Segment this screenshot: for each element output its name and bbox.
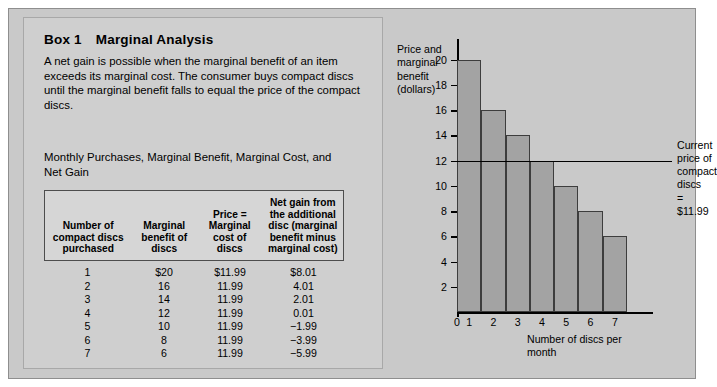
table-row: 2 16 11.99 4.01 [44,279,344,292]
y-tick-label-8: 8 [421,205,447,217]
bar-5 [554,186,578,312]
x-axis-line [457,312,653,314]
box-panel: Box 1Marginal Analysis A net gain is pos… [23,17,383,369]
bar-2 [481,110,505,312]
cell-marginal-cost: 11.99 [197,320,263,333]
cell-quantity: 1 [44,266,131,279]
cell-net-gain: 0.01 [263,306,344,319]
x-tick-label-6: 6 [583,316,599,328]
y-tick-label-4: 4 [421,256,447,268]
table-header-box: Number of compact discs purchased Margin… [44,190,344,261]
cell-marginal-cost: 11.99 [197,279,263,292]
box-number: Box 1 [44,32,82,47]
cell-quantity: 3 [44,293,131,306]
table-row: 1 $20 $11.99 $8.01 [44,266,344,279]
current-price-line [457,161,672,162]
table-row: 3 14 11.99 2.01 [44,293,344,306]
cell-marginal-benefit: 16 [131,279,197,292]
cell-marginal-benefit: 10 [131,320,197,333]
y-tick-label-10: 10 [421,180,447,192]
cell-quantity: 2 [44,279,131,292]
bar-7 [603,236,627,312]
x-tick-label-4: 4 [534,316,550,328]
x-tick-label-7: 7 [607,316,623,328]
bar-6 [578,211,602,312]
x-tick-label-5: 5 [558,316,574,328]
cell-net-gain: 4.01 [263,279,344,292]
x-tick-label-1: 1 [461,316,477,328]
bar-chart: Price and marginal benefit (dollars) 246… [397,17,683,369]
y-tick-label-6: 6 [421,230,447,242]
cell-marginal-cost: 11.99 [197,293,263,306]
x-axis-title: Number of discs per month [527,333,647,360]
bar-4 [530,161,554,312]
cell-net-gain: −1.99 [263,320,344,333]
cell-net-gain: −3.99 [263,333,344,346]
y-tick-label-14: 14 [421,129,447,141]
column-header-marginal-cost: Price = Marginal cost of discs [197,197,263,255]
table-header: Number of compact discs purchased Margin… [45,197,343,255]
box-body-text: A net gain is possible when the marginal… [44,54,362,112]
box-title-text: Marginal Analysis [96,32,214,47]
table-body-wrap: 1 $20 $11.99 $8.01 2 16 11.99 4.01 3 14 [44,261,344,360]
x-tick-label-2: 2 [485,316,501,328]
cell-quantity: 6 [44,333,131,346]
y-tick-label-2: 2 [421,281,447,293]
cell-net-gain: −5.99 [263,346,344,359]
current-price-annotation: Current price of compact discs = $11.99 [677,139,717,218]
cell-marginal-benefit: 12 [131,306,197,319]
cell-marginal-cost: 11.99 [197,346,263,359]
y-tick-label-20: 20 [421,54,447,66]
cell-marginal-cost: 11.99 [197,333,263,346]
box-heading: Box 1Marginal Analysis [44,32,213,47]
bar-1 [457,60,481,312]
cell-net-gain: $8.01 [263,266,344,279]
table-caption: Monthly Purchases, Marginal Benefit, Mar… [44,150,344,179]
cell-quantity: 5 [44,320,131,333]
table-header-row: Number of compact discs purchased Margin… [45,197,343,255]
x-tick-label-3: 3 [510,316,526,328]
cell-marginal-benefit: $20 [131,266,197,279]
cell-quantity: 7 [44,346,131,359]
data-table: Number of compact discs purchased Margin… [44,190,344,360]
cell-marginal-cost: 11.99 [197,306,263,319]
cell-marginal-benefit: 6 [131,346,197,359]
cell-quantity: 4 [44,306,131,319]
cell-marginal-benefit: 8 [131,333,197,346]
plot-area [457,47,627,312]
y-tick-label-18: 18 [421,79,447,91]
y-tick-label-12: 12 [421,155,447,167]
column-header-net-gain: Net gain from the additional disc (margi… [263,197,344,255]
column-header-quantity: Number of compact discs purchased [45,197,131,255]
figure-container: Box 1Marginal Analysis A net gain is pos… [8,8,696,379]
table-row: 6 8 11.99 −3.99 [44,333,344,346]
table-row: 7 6 11.99 −5.99 [44,346,344,359]
y-tick-label-16: 16 [421,104,447,116]
table-body: 1 $20 $11.99 $8.01 2 16 11.99 4.01 3 14 [44,266,344,360]
column-header-marginal-benefit: Marginal benefit of discs [131,197,197,255]
cell-marginal-benefit: 14 [131,293,197,306]
cell-marginal-cost: $11.99 [197,266,263,279]
table-row: 5 10 11.99 −1.99 [44,320,344,333]
table-row: 4 12 11.99 0.01 [44,306,344,319]
cell-net-gain: 2.01 [263,293,344,306]
